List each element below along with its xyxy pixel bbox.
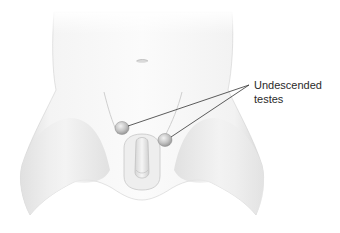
body-outline-graphic bbox=[0, 0, 340, 233]
annotation-line-1: Undescended bbox=[254, 78, 322, 92]
annotation-label: Undescended testes bbox=[254, 78, 322, 106]
penis bbox=[135, 138, 149, 179]
annotation-line-2: testes bbox=[254, 92, 322, 106]
anatomy-illustration: Undescended testes bbox=[0, 0, 340, 233]
right-undescended-testis bbox=[158, 134, 172, 147]
left-undescended-testis bbox=[115, 122, 129, 135]
